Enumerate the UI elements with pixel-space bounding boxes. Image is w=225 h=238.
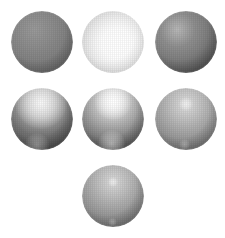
sphere-limb-shading xyxy=(82,165,144,227)
sphere-limb-shading xyxy=(11,88,73,150)
rendered-sphere xyxy=(155,11,217,73)
rendered-sphere xyxy=(82,88,144,150)
sphere-limb-shading xyxy=(82,11,144,73)
figure-canvas xyxy=(0,0,225,238)
rendered-sphere xyxy=(82,165,144,227)
rendered-sphere xyxy=(155,88,217,150)
rendered-sphere xyxy=(82,11,144,73)
sphere-limb-shading xyxy=(155,11,217,73)
sphere-limb-shading xyxy=(82,88,144,150)
rendered-sphere xyxy=(11,88,73,150)
rendered-sphere xyxy=(11,11,73,73)
sphere-limb-shading xyxy=(11,11,73,73)
sphere-limb-shading xyxy=(155,88,217,150)
